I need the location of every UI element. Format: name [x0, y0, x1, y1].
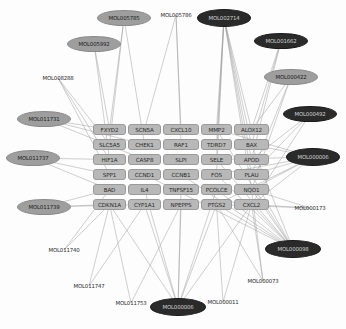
gene-node[interactable]: TDRD7: [201, 139, 232, 150]
gene-node[interactable]: HIF1A: [93, 154, 126, 165]
gene-node[interactable]: CXCL2: [234, 199, 269, 210]
gene-node[interactable]: CDKN1A: [93, 199, 126, 210]
edge: [224, 18, 252, 175]
edge: [89, 205, 110, 287]
compound-node[interactable]: MOL001662: [254, 33, 308, 49]
compound-node[interactable]: MOL005785: [97, 10, 151, 26]
compound-label: MOL005785: [108, 15, 139, 21]
edge: [224, 18, 252, 130]
gene-node[interactable]: BAD: [93, 184, 126, 195]
compound-label: MOL000492: [294, 111, 325, 117]
compound-node[interactable]: MOL000492: [283, 106, 337, 122]
compound-label: MOL002714: [208, 15, 239, 21]
gene-node[interactable]: NQO1: [234, 184, 269, 195]
compound-label: MOL000006: [162, 304, 193, 310]
gene-node[interactable]: SELE: [201, 154, 232, 165]
edge: [145, 15, 177, 130]
compound-node[interactable]: MOL005786: [149, 7, 203, 23]
gene-node[interactable]: PLAU: [234, 169, 269, 180]
gene-node[interactable]: FXYD2: [93, 124, 126, 135]
compound-node[interactable]: MOL000173: [283, 200, 337, 216]
compound-label: MOL000011: [207, 299, 238, 305]
compound-node[interactable]: MOL002714: [197, 9, 251, 27]
compound-label: MOL011737: [17, 155, 48, 161]
compound-node[interactable]: MOL000422: [264, 69, 318, 85]
gene-node[interactable]: NPEPPS: [163, 199, 199, 210]
gene-node[interactable]: CHEK1: [128, 139, 161, 150]
compound-label: MOL000073: [247, 278, 278, 284]
edge: [252, 41, 282, 130]
gene-node[interactable]: BAX: [234, 139, 269, 150]
compound-label: MOL011731: [28, 116, 59, 122]
gene-node[interactable]: MMP2: [201, 124, 232, 135]
gene-node[interactable]: CCND1: [128, 169, 161, 180]
compound-node[interactable]: MOL000006: [286, 148, 340, 166]
compound-label: MOL000098: [277, 246, 308, 252]
edge: [217, 205, 264, 282]
gene-node[interactable]: CXCL10: [163, 124, 199, 135]
gene-node[interactable]: SCN5A: [128, 124, 161, 135]
compound-node[interactable]: MOL011737: [6, 150, 60, 166]
compound-node[interactable]: MOL011747: [62, 278, 116, 294]
gene-node[interactable]: CASP8: [128, 154, 161, 165]
compound-node[interactable]: MOL011740: [37, 242, 91, 258]
edge: [217, 205, 224, 303]
compound-label: MOL001662: [265, 38, 296, 44]
compound-node[interactable]: MOL000098: [265, 240, 321, 258]
compound-label: MOL011753: [115, 300, 146, 306]
gene-node[interactable]: CYP1A1: [128, 199, 161, 210]
compound-node[interactable]: MOL000073: [236, 273, 290, 289]
edge: [110, 205, 179, 308]
compound-node[interactable]: MOL000011: [196, 294, 250, 310]
gene-node[interactable]: SPP1: [93, 169, 126, 180]
compound-node[interactable]: MOL011739: [17, 199, 71, 215]
edge: [131, 205, 181, 304]
gene-node[interactable]: PCOLCE: [201, 184, 232, 195]
compound-node[interactable]: MOL008288: [31, 70, 85, 86]
edge: [252, 205, 264, 282]
compound-label: MOL000006: [297, 154, 328, 160]
gene-node[interactable]: TNFSF15: [163, 184, 199, 195]
edge: [94, 44, 110, 130]
edge: [178, 205, 252, 308]
network-canvas: FXYD2SCN5ACXCL10MMP2ALOX12SLC5A5CHEK1RAF…: [0, 0, 346, 329]
gene-node[interactable]: CCNB1: [163, 169, 199, 180]
compound-label: MOL008288: [42, 75, 73, 81]
gene-node[interactable]: IL4: [128, 184, 161, 195]
compound-label: MOL005992: [78, 41, 109, 47]
edge: [252, 77, 292, 130]
gene-node[interactable]: SLC5A5: [93, 139, 126, 150]
compound-label: MOL011747: [73, 283, 104, 289]
gene-node[interactable]: RAF1: [163, 139, 199, 150]
compound-node[interactable]: MOL011731: [17, 111, 71, 127]
gene-node[interactable]: PTGS2: [201, 199, 232, 210]
edge: [217, 18, 225, 175]
compound-node[interactable]: MOL005992: [67, 36, 121, 52]
gene-node[interactable]: APOD: [234, 154, 269, 165]
compound-label: MOL000422: [275, 74, 306, 80]
compound-label: MOL011740: [48, 247, 79, 253]
compound-label: MOL005786: [160, 12, 191, 18]
gene-node[interactable]: SLPI: [163, 154, 199, 165]
gene-node[interactable]: FOS: [201, 169, 232, 180]
gene-node[interactable]: ALOX12: [234, 124, 269, 135]
compound-label: MOL000173: [294, 205, 325, 211]
edge: [178, 205, 217, 308]
compound-label: MOL011739: [28, 204, 59, 210]
